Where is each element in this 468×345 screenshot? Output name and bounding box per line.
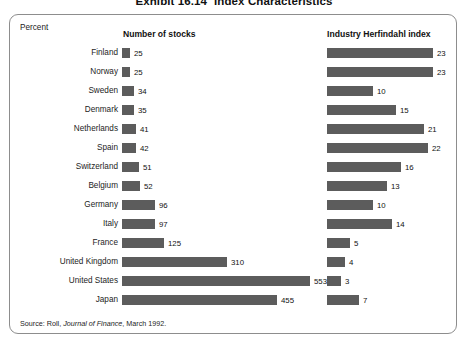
bar-value-herf: 23 [437,68,446,77]
bar-group-stocks: 96 [122,200,320,211]
bar-herf [327,143,428,153]
chart-row: Germany9610 [10,197,458,216]
bar-group-herf: 7 [327,295,452,306]
bar-value-stocks: 41 [140,125,149,134]
percent-axis-label: Percent [20,23,48,32]
country-label: Spain [0,143,118,152]
bar-group-stocks: 310 [122,257,320,268]
bar-stocks [122,295,277,305]
bar-group-stocks: 35 [122,105,320,116]
country-label: Germany [0,200,118,209]
country-label: Belgium [0,181,118,190]
chart-row: United States5533 [10,273,458,292]
bar-group-herf: 14 [327,219,452,230]
bar-stocks [122,200,155,210]
bar-value-herf: 5 [354,239,358,248]
country-label: Finland [0,48,118,57]
chart-row: France1255 [10,235,458,254]
chart-row: Belgium5213 [10,178,458,197]
bar-value-stocks: 34 [138,87,147,96]
column-header-industry-herfindahl-index: Industry Herfindahl index [327,29,431,39]
bar-herf [327,200,373,210]
country-label: Denmark [0,105,118,114]
bar-group-stocks: 125 [122,238,320,249]
bar-group-herf: 10 [327,200,452,211]
exhibit-title-text: Index Characteristics [214,0,332,7]
country-label: Japan [0,295,118,304]
bar-group-herf: 23 [327,48,452,59]
bar-stocks [122,276,310,286]
chart-row: Finland2523 [10,45,458,64]
bar-group-herf: 23 [327,67,452,78]
bar-stocks [122,143,136,153]
bar-group-stocks: 41 [122,124,320,135]
bar-value-stocks: 25 [134,68,143,77]
bar-stocks [122,105,134,115]
bar-stocks [122,219,155,229]
bar-value-herf: 16 [405,163,414,172]
bar-group-stocks: 553 [122,276,320,287]
bar-group-herf: 5 [327,238,452,249]
bar-value-herf: 23 [437,49,446,58]
bar-herf [327,48,433,58]
bar-value-stocks: 97 [159,220,168,229]
bar-group-stocks: 97 [122,219,320,230]
bar-value-herf: 10 [377,87,386,96]
source-prefix: Source: Roll, [20,319,63,328]
bar-value-herf: 10 [377,201,386,210]
country-label: Sweden [0,86,118,95]
bar-group-stocks: 34 [122,86,320,97]
country-label: Netherlands [0,124,118,133]
bar-group-stocks: 51 [122,162,320,173]
source-note: Source: Roll, Journal of Finance, March … [20,319,166,328]
bar-group-herf: 16 [327,162,452,173]
chart-row: Norway2523 [10,64,458,83]
bar-value-herf: 3 [345,277,349,286]
bar-value-stocks: 35 [138,106,147,115]
bar-value-herf: 7 [363,296,367,305]
bar-group-stocks: 25 [122,67,320,78]
country-label: France [0,238,118,247]
bar-value-stocks: 553 [314,277,327,286]
source-journal: Journal of Finance [63,319,122,328]
chart-row: United Kingdom3104 [10,254,458,273]
bar-herf [327,295,359,305]
chart-rows: Finland2523Norway2523Sweden3410Denmark35… [10,45,458,311]
bar-value-stocks: 25 [134,49,143,58]
bar-value-stocks: 310 [231,258,244,267]
bar-stocks [122,181,140,191]
chart-row: Spain4222 [10,140,458,159]
bar-group-herf: 3 [327,276,452,287]
bar-stocks [122,238,164,248]
bar-stocks [122,48,130,58]
bar-herf [327,257,345,267]
exhibit-title: Exhibit 16.14Index Characteristics [0,0,468,7]
bar-group-herf: 10 [327,86,452,97]
bar-herf [327,162,401,172]
country-label: Italy [0,219,118,228]
chart-row: Switzerland5116 [10,159,458,178]
bar-value-herf: 21 [428,125,437,134]
bar-group-herf: 13 [327,181,452,192]
bar-value-herf: 22 [432,144,441,153]
bar-group-herf: 15 [327,105,452,116]
chart-row: Netherlands4121 [10,121,458,140]
bar-group-stocks: 42 [122,143,320,154]
country-label: United Kingdom [0,257,118,266]
bar-value-herf: 4 [349,258,353,267]
bar-stocks [122,162,139,172]
bar-stocks [122,67,130,77]
source-suffix: , March 1992. [122,319,166,328]
bar-group-stocks: 455 [122,295,320,306]
chart-row: Japan4557 [10,292,458,311]
bar-group-herf: 4 [327,257,452,268]
exhibit-number: Exhibit 16.14 [135,0,207,7]
bar-herf [327,86,373,96]
bar-herf [327,276,341,286]
bar-herf [327,181,387,191]
country-label: United States [0,276,118,285]
bar-value-stocks: 42 [140,144,149,153]
bar-herf [327,105,396,115]
bar-herf [327,219,392,229]
country-label: Norway [0,67,118,76]
